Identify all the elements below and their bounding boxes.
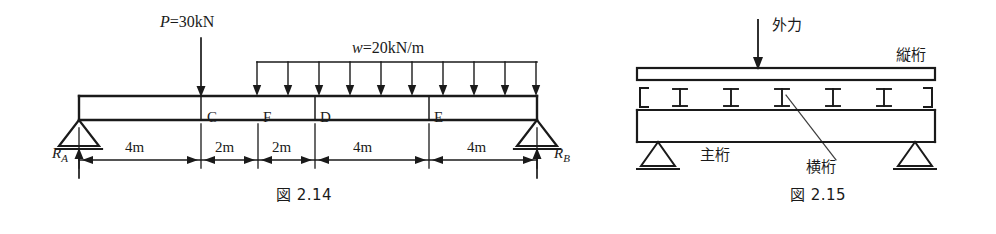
beam-panel-dividers <box>201 96 429 120</box>
dimension-label-5: 4m <box>467 140 486 155</box>
reaction-b-symbol: R <box>554 145 563 161</box>
reaction-b-subscript: B <box>563 152 570 164</box>
reaction-a-subscript: A <box>61 152 68 164</box>
dimension-label-3: 2m <box>272 140 291 155</box>
figure-2-14: P=30kN w=20kN/m C F D E 4m 2m 2m 4m 4m R… <box>0 0 996 234</box>
beam-body <box>79 96 537 120</box>
point-label-d: D <box>320 110 331 125</box>
point-load-value: 30kN <box>179 13 215 30</box>
distributed-load-value: 20kN/m <box>372 39 424 56</box>
dimension-label-4: 4m <box>353 140 372 155</box>
dimension-label-2: 2m <box>215 140 234 155</box>
point-load-symbol: P <box>160 13 170 30</box>
reaction-label-b: RB <box>554 146 570 164</box>
distributed-load-symbol: w <box>352 39 363 56</box>
distributed-load-arrowheads <box>253 85 540 96</box>
point-label-e: E <box>434 110 443 125</box>
figure-2-14-caption: 図 2.14 <box>276 188 332 203</box>
distributed-load-arrows <box>257 62 536 90</box>
dimension-label-1: 4m <box>125 140 144 155</box>
point-label-f: F <box>263 110 271 125</box>
point-label-c: C <box>207 110 217 125</box>
reaction-label-a: RA <box>52 146 68 164</box>
reaction-a-symbol: R <box>52 145 61 161</box>
point-load-equals: = <box>170 13 179 30</box>
distributed-load-equals: = <box>363 39 372 56</box>
point-load-label: P=30kN <box>160 14 214 30</box>
distributed-load-label: w=20kN/m <box>352 40 424 56</box>
